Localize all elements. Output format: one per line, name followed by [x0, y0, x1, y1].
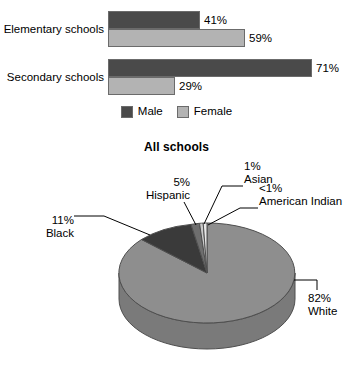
pie-chart-graphic [0, 128, 353, 365]
bar-elementary-female [108, 29, 245, 47]
bar-category-label-secondary: Secondary schools [7, 72, 104, 84]
bar-value-secondary-male: 71% [316, 63, 339, 75]
bar-category-label-elementary: Elementary schools [4, 24, 104, 36]
pie-callout-hispanic: 5% Hispanic [116, 176, 190, 201]
bar-value-elementary-male: 41% [204, 15, 227, 27]
bar-secondary-male [108, 59, 312, 77]
legend-swatch-male-icon [121, 106, 133, 118]
bar-secondary-female [108, 77, 175, 95]
leader-line-black [74, 216, 150, 235]
leader-line-white [294, 280, 317, 290]
pie-callout-american-indian-name: American Indian [259, 195, 342, 208]
pie-callout-black: 11% Black [6, 214, 74, 239]
leader-line-asian [204, 186, 243, 224]
legend-entry-female: Female [177, 106, 232, 118]
pie-callout-american-indian: <1% American Indian [259, 182, 342, 207]
legend-label-female: Female [194, 106, 232, 118]
bar-value-elementary-female: 59% [249, 33, 272, 45]
legend-label-male: Male [138, 106, 163, 118]
pie-callout-black-name: Black [6, 227, 74, 240]
pie-callout-hispanic-pct: 5% [116, 176, 190, 189]
leader-line-hispanic [184, 202, 196, 225]
pie-callout-american-indian-pct: <1% [259, 182, 342, 195]
pie-callout-white-name: White [308, 305, 337, 318]
pie-callout-black-pct: 11% [6, 214, 74, 227]
pie-callout-white: 82% White [308, 292, 337, 317]
bar-chart-legend: Male Female [0, 106, 353, 118]
grouped-bar-chart: Elementary schools 41% 59% Secondary sch… [0, 0, 353, 128]
bar-value-secondary-female: 29% [179, 81, 202, 93]
bar-elementary-male [108, 11, 200, 29]
leader-line-american-indian [208, 208, 258, 225]
pie-callout-hispanic-name: Hispanic [116, 189, 190, 202]
pie-callout-white-pct: 82% [308, 292, 337, 305]
legend-swatch-female-icon [177, 106, 189, 118]
pie-callout-asian-pct: 1% [244, 160, 273, 173]
pie-chart: All schools [0, 128, 353, 365]
legend-entry-male: Male [121, 106, 163, 118]
